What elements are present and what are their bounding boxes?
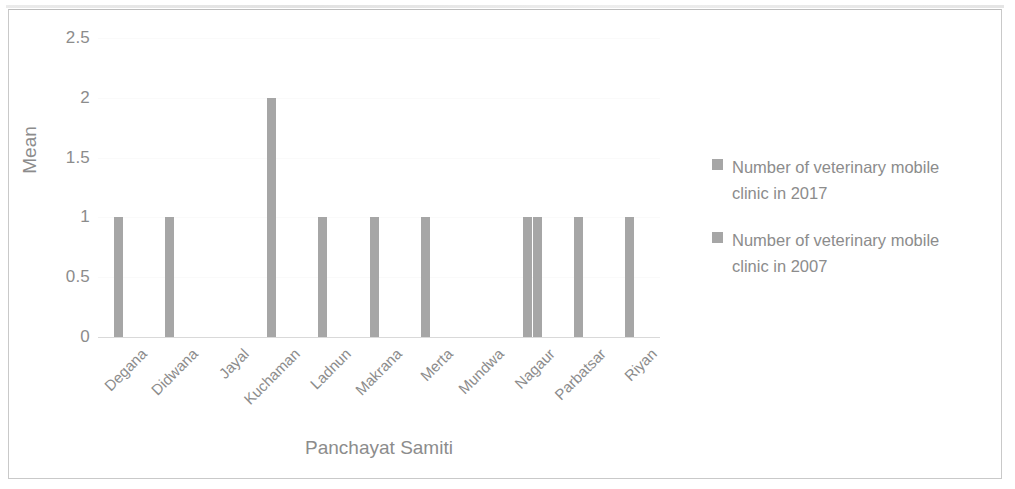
gridline (98, 98, 660, 99)
legend-swatch-icon (712, 232, 723, 243)
bar (318, 217, 327, 337)
y-axis-tick-label: 0 (30, 327, 90, 347)
bar (370, 217, 379, 337)
legend-item: Number of veterinary mobile clinic in 20… (712, 228, 992, 279)
y-axis-tick-label: 2.5 (30, 28, 90, 48)
legend-label: Number of veterinary mobile clinic in 20… (732, 155, 980, 206)
x-axis-line (98, 337, 660, 338)
bar (523, 217, 532, 337)
legend-item: Number of veterinary mobile clinic in 20… (712, 155, 992, 206)
bar (533, 217, 542, 337)
bar (625, 217, 634, 337)
gridline (98, 158, 660, 159)
x-axis-tick-labels: DeganaDidwanaJayalKuchamanLadnunMakranaM… (98, 339, 660, 419)
chart-legend: Number of veterinary mobile clinic in 20… (712, 155, 992, 301)
y-axis-tick-label: 1.5 (30, 148, 90, 168)
x-axis-title: Panchayat Samiti (98, 437, 660, 459)
y-axis-tick-labels: 00.511.522.5 (20, 38, 90, 337)
bar (114, 217, 123, 337)
bar (574, 217, 583, 337)
bar (267, 98, 276, 337)
y-axis-tick-label: 0.5 (30, 267, 90, 287)
y-axis-tick-label: 1 (30, 207, 90, 227)
plot-area (98, 38, 660, 337)
gridline (98, 38, 660, 39)
y-axis-tick-label: 2 (30, 88, 90, 108)
bar (165, 217, 174, 337)
legend-label: Number of veterinary mobile clinic in 20… (732, 228, 980, 279)
veterinary-mobile-clinic-bar-chart: Mean 00.511.522.5 DeganaDidwanaJayalKuch… (0, 0, 1015, 489)
bar (421, 217, 430, 337)
legend-swatch-icon (712, 159, 723, 170)
